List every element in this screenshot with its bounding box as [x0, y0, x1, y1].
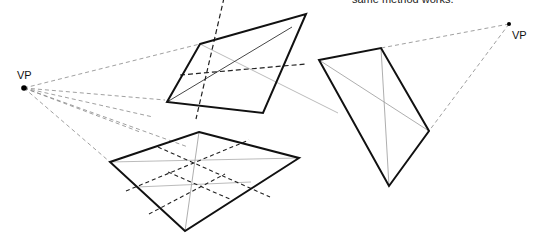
top-quad	[167, 0, 338, 119]
right-quad	[319, 48, 429, 186]
right-vp-guides	[381, 24, 509, 131]
vanishing-point-right	[507, 22, 511, 26]
vanishing-point-left	[21, 85, 27, 91]
perspective-diagram	[0, 0, 537, 250]
bottom-quad	[110, 132, 299, 231]
